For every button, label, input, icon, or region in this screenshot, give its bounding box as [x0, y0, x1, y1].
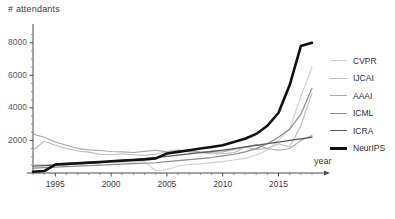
legend-label: ICML [353, 108, 373, 118]
x-tick-label: 2015 [263, 179, 295, 189]
legend-label: AAAI [353, 91, 372, 101]
legend-item-cvpr[interactable]: CVPR [330, 52, 385, 70]
legend-label: NeurIPS [353, 143, 385, 153]
x-tick-label: 2010 [207, 179, 239, 189]
x-tick-label: 2000 [95, 179, 127, 189]
legend-swatch-icon [330, 130, 347, 131]
legend-label: ICRA [353, 126, 373, 136]
legend-item-aaai[interactable]: AAAI [330, 87, 385, 105]
y-tick-label: 8000 [0, 37, 27, 47]
legend-item-ijcai[interactable]: IJCAI [330, 70, 385, 88]
x-axis-title: year [314, 156, 332, 166]
x-tick-label: 1995 [39, 179, 71, 189]
y-tick-label: 4000 [0, 102, 27, 112]
legend-swatch-icon [330, 95, 347, 96]
chart-legend: CVPRIJCAIAAAIICMLICRANeurIPS [330, 52, 385, 157]
legend-label: CVPR [353, 56, 377, 66]
legend-swatch-icon [330, 78, 347, 79]
legend-item-icml[interactable]: ICML [330, 105, 385, 123]
legend-swatch-icon [330, 113, 347, 114]
legend-label: IJCAI [353, 73, 374, 83]
y-tick-label: 2000 [0, 135, 27, 145]
chart-figure: # attendants CVPRIJCAIAAAIICMLICRANeurIP… [0, 0, 395, 219]
x-tick-label: 2005 [151, 179, 183, 189]
series-line-neurips [33, 43, 312, 172]
y-tick-label: 6000 [0, 70, 27, 80]
legend-swatch-icon [330, 147, 347, 150]
legend-swatch-icon [330, 60, 347, 61]
legend-item-icra[interactable]: ICRA [330, 122, 385, 140]
legend-item-neurips[interactable]: NeurIPS [330, 140, 385, 158]
